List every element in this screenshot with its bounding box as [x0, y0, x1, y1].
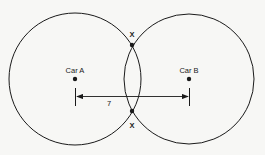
car-b-point	[187, 77, 191, 81]
car-a-point	[73, 77, 77, 81]
intersecting-circles-diagram: Car A Car B X X 7	[0, 0, 265, 155]
intersection-bottom-point	[130, 109, 134, 113]
car-a-label: Car A	[66, 66, 85, 75]
distance-label: 7	[107, 99, 111, 108]
intersection-top-label: X	[129, 30, 134, 39]
intersection-bottom-label: X	[129, 121, 134, 130]
intersection-top-point	[130, 43, 134, 47]
car-b-label: Car B	[179, 66, 198, 75]
diagram-svg: Car A Car B X X 7	[0, 0, 265, 155]
